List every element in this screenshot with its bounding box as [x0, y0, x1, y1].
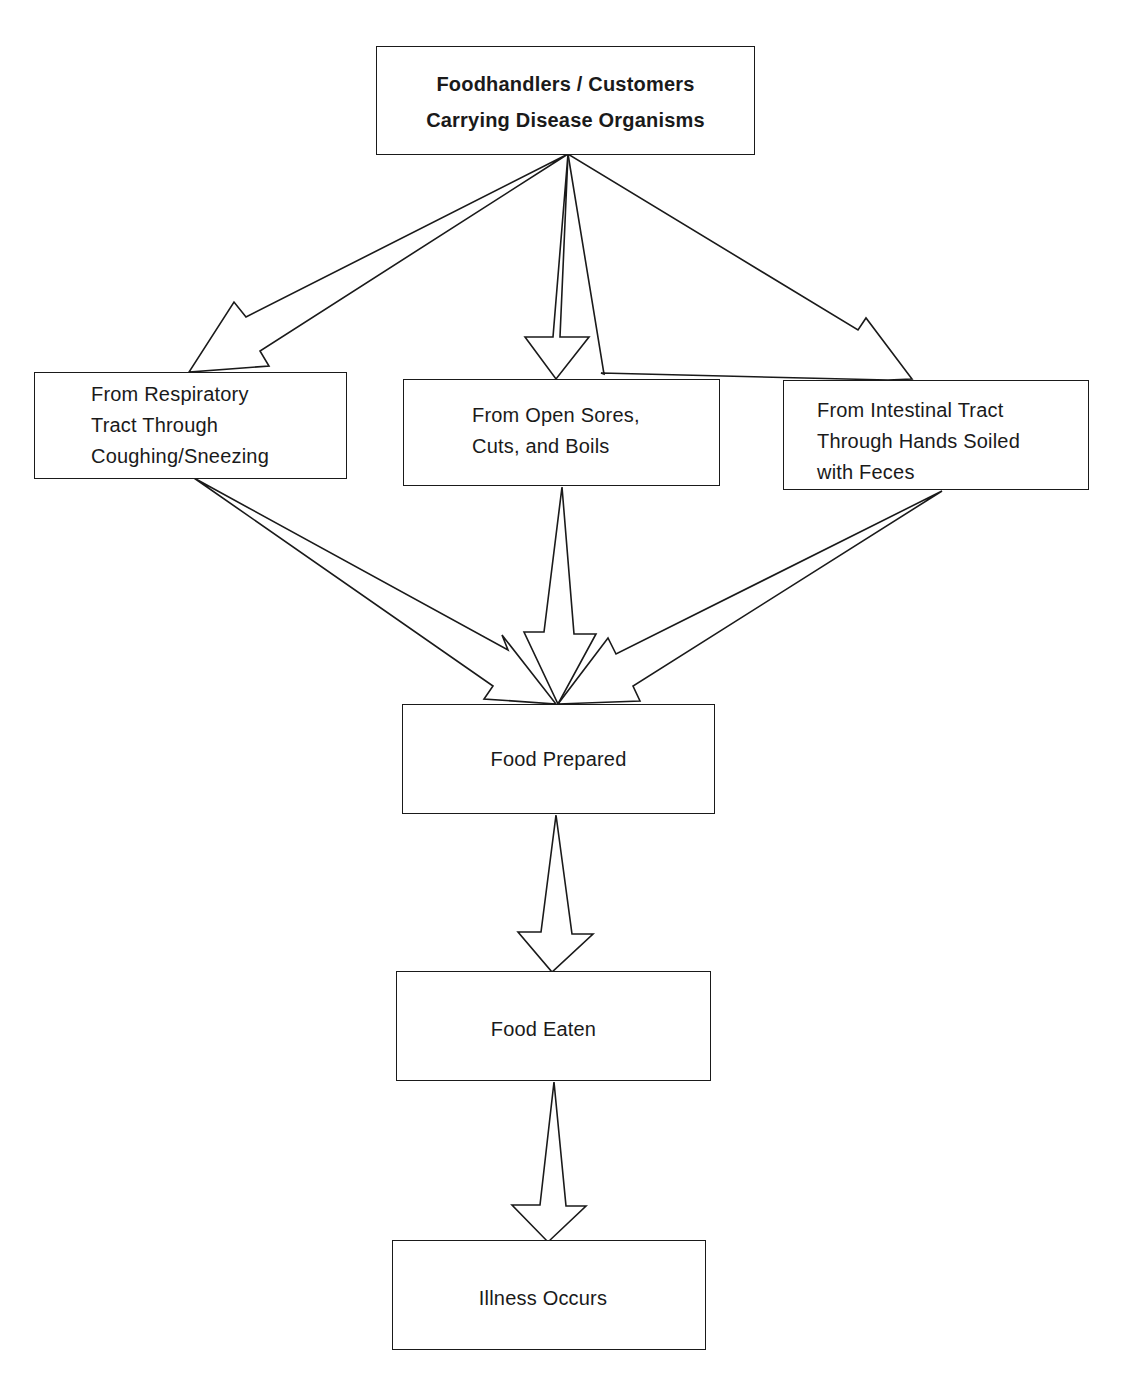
- node-intestinal-label: From Intestinal Tract Through Hands Soil…: [817, 395, 1020, 488]
- node-food-eaten-label: Food Eaten: [377, 1014, 710, 1045]
- node-food-eaten: Food Eaten: [396, 971, 711, 1081]
- node-sores-label: From Open Sores, Cuts, and Boils: [472, 400, 640, 462]
- arrow-source-to-intestinal: [568, 154, 912, 380]
- arrow-intestinal-to-prepared: [558, 491, 942, 704]
- node-illness-occurs: Illness Occurs: [392, 1240, 706, 1350]
- node-food-prepared-label: Food Prepared: [403, 744, 714, 775]
- arrow-prepared-to-eaten: [518, 815, 593, 972]
- arrow-respiratory-to-prepared: [194, 478, 556, 704]
- arrow-eaten-to-illness: [512, 1082, 586, 1242]
- node-respiratory: From Respiratory Tract Through Coughing/…: [34, 372, 347, 479]
- node-source-line2: Carrying Disease Organisms: [377, 105, 754, 136]
- node-illness-occurs-label: Illness Occurs: [381, 1283, 705, 1314]
- node-respiratory-label: From Respiratory Tract Through Coughing/…: [91, 379, 269, 472]
- node-sores: From Open Sores, Cuts, and Boils: [403, 379, 720, 486]
- flow-arrows: [0, 0, 1129, 1387]
- arrow-source-to-respiratory: [189, 154, 568, 372]
- node-food-prepared: Food Prepared: [402, 704, 715, 814]
- node-intestinal: From Intestinal Tract Through Hands Soil…: [783, 380, 1089, 490]
- node-source-line1: Foodhandlers / Customers: [377, 69, 754, 100]
- node-source: Foodhandlers / Customers Carrying Diseas…: [376, 46, 755, 155]
